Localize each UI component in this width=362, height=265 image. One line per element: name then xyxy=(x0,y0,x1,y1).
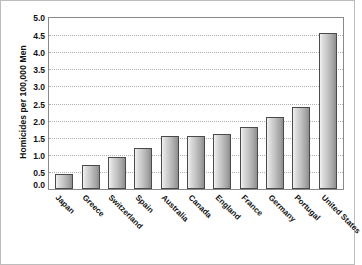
x-label-slot: Switzerland xyxy=(103,191,130,263)
plot-area: 5.04.54.03.53.02.52.01.51.00.50.0 xyxy=(48,17,344,190)
y-axis-tick-label: 3.5 xyxy=(33,65,45,75)
bar-portugal[interactable] xyxy=(292,107,310,189)
x-axis-tick-label-united-states: United States xyxy=(319,193,362,236)
y-axis-tick-label: 1.5 xyxy=(33,134,45,144)
bar-slot xyxy=(315,18,341,189)
y-axis-tick-label: 4.5 xyxy=(33,31,45,41)
y-axis-tick-label: 3.0 xyxy=(33,82,45,92)
x-label-slot: Greece xyxy=(77,191,104,263)
bar-slot xyxy=(77,18,103,189)
x-label-slot: England xyxy=(209,191,236,263)
x-label-slot: Japan xyxy=(50,191,77,263)
bar-spain[interactable] xyxy=(134,148,152,189)
y-axis-tick-label: 0.0 xyxy=(33,182,45,189)
bar-australia[interactable] xyxy=(161,136,179,189)
bar-slot xyxy=(130,18,156,189)
bar-slot xyxy=(209,18,235,189)
y-axis-title: Homicides per 100,000 Men xyxy=(18,17,28,187)
bar-slot xyxy=(51,18,77,189)
x-label-slot: Portugal xyxy=(289,191,316,263)
x-label-slot: Canada xyxy=(183,191,210,263)
bar-slot xyxy=(104,18,130,189)
bar-slot xyxy=(288,18,314,189)
x-axis-tick-label-japan: Japan xyxy=(54,193,77,216)
bar-slot xyxy=(262,18,288,189)
bars-layer xyxy=(49,18,343,189)
y-axis-tick-label: 2.5 xyxy=(33,100,45,110)
bar-canada[interactable] xyxy=(187,136,205,189)
bar-germany[interactable] xyxy=(266,117,284,189)
x-label-slot: Spain xyxy=(130,191,157,263)
bar-switzerland[interactable] xyxy=(108,157,126,189)
y-axis-tick-label: 5.0 xyxy=(33,13,45,23)
y-axis-tick-label: 4.0 xyxy=(33,48,45,58)
bar-japan[interactable] xyxy=(55,174,73,189)
x-axis-labels: JapanGreeceSwitzerlandSpainAustraliaCana… xyxy=(48,191,344,263)
x-label-slot: Australia xyxy=(156,191,183,263)
bar-slot xyxy=(236,18,262,189)
x-axis-tick-label-france: France xyxy=(240,193,265,218)
x-label-slot: United States xyxy=(315,191,342,263)
y-axis-tick-label: 0.5 xyxy=(33,168,45,178)
bar-england[interactable] xyxy=(213,134,231,189)
bar-united-states[interactable] xyxy=(319,33,337,189)
y-axis-tick-label: 2.0 xyxy=(33,117,45,127)
y-axis-tick-label: 1.0 xyxy=(33,151,45,161)
bar-slot xyxy=(183,18,209,189)
bar-france[interactable] xyxy=(240,127,258,189)
x-label-slot: Germany xyxy=(262,191,289,263)
bar-slot xyxy=(156,18,182,189)
x-axis-tick-label-spain: Spain xyxy=(134,193,156,215)
bar-greece[interactable] xyxy=(82,165,100,189)
x-label-slot: France xyxy=(236,191,263,263)
